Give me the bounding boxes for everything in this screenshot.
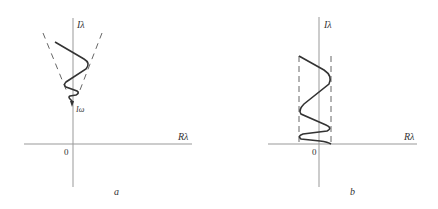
caption-b: b <box>350 186 355 197</box>
real-axis-label-a: Rλ <box>177 131 189 142</box>
oscillating-curve-b <box>299 56 331 144</box>
real-axis-label-b: Rλ <box>403 131 415 142</box>
dashed-bound-right-a <box>80 33 102 90</box>
dashed-bound-left-a <box>43 33 67 92</box>
imag-axis-label-b: Iλ <box>323 19 332 30</box>
panel-b: Iλ Rλ 0 b <box>268 17 417 197</box>
i-omega-label: Iω <box>75 105 85 114</box>
imag-axis-label-a: Iλ <box>76 19 85 30</box>
spiral-curve-a <box>55 42 88 103</box>
caption-a: a <box>114 186 119 197</box>
figure: Iλ Rλ 0 Iω a Iλ Rλ 0 b <box>0 0 438 209</box>
origin-label-a: 0 <box>64 147 69 157</box>
panel-a: Iλ Rλ 0 Iω a <box>24 18 192 197</box>
origin-label-b: 0 <box>312 147 317 157</box>
